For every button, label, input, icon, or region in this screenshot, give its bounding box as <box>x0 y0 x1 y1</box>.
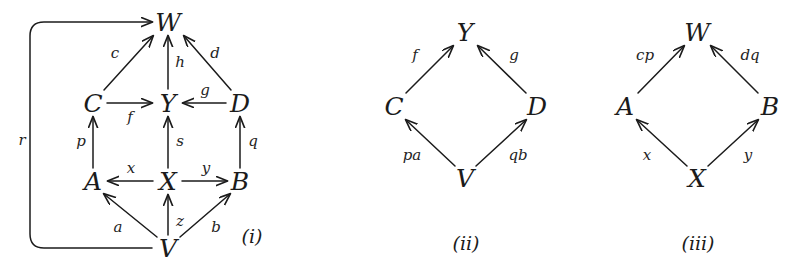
edge-label-i-q: q <box>248 134 258 149</box>
node-i-D: D <box>230 91 250 116</box>
edge-label-iii-cp: cp <box>636 48 654 63</box>
edge-label-i-f: f <box>127 110 133 125</box>
arrow-i-b <box>180 194 230 237</box>
node-iii-B: B <box>761 94 779 119</box>
edge-label-i-h: h <box>175 55 185 70</box>
edge-label-iii-y: y <box>744 148 752 163</box>
node-ii-D: D <box>527 94 547 119</box>
edge-label-ii-g: g <box>509 48 519 63</box>
edge-label-i-y: y <box>202 161 210 176</box>
edge-label-i-z: z <box>176 214 184 229</box>
edge-label-ii-qb: qb <box>508 148 527 163</box>
edge-label-i-r: r <box>18 133 25 148</box>
edge-label-iii-x: x <box>643 148 651 163</box>
node-ii-Y: Y <box>457 20 474 45</box>
node-i-A: A <box>84 169 102 194</box>
edge-label-i-b: b <box>211 220 221 235</box>
edge-label-i-a: a <box>114 220 123 235</box>
edge-label-iii-dq: dq <box>740 48 759 63</box>
edge-label-i-s: s <box>176 134 184 149</box>
edge-label-i-d: d <box>210 46 220 61</box>
node-i-X: X <box>159 169 177 194</box>
caption-diagram-ii: (ii) <box>453 234 480 253</box>
node-iii-X: X <box>688 166 706 191</box>
node-i-V: V <box>159 236 177 261</box>
edge-label-i-x: x <box>127 161 135 176</box>
node-iii-A: A <box>616 94 634 119</box>
edge-label-ii-pa: pa <box>403 148 422 163</box>
edge-label-i-c: c <box>111 46 119 61</box>
node-iii-W: W <box>684 20 710 45</box>
node-ii-C: C <box>384 94 403 119</box>
arrow-i-a <box>104 194 157 237</box>
node-ii-V: V <box>456 166 474 191</box>
arrow-i-r <box>30 22 152 248</box>
node-i-Y: Y <box>160 91 177 116</box>
node-i-W: W <box>155 10 181 35</box>
caption-diagram-i: (i) <box>242 227 263 246</box>
caption-diagram-iii: (iii) <box>681 234 714 253</box>
node-i-B: B <box>231 169 249 194</box>
edge-label-ii-f: f <box>412 48 418 63</box>
node-i-C: C <box>83 91 102 116</box>
edge-label-i-p: p <box>76 134 86 149</box>
edge-label-i-g: g <box>200 83 210 98</box>
commutative-diagram-figure: W C Y D A X B V c h d f g p s q x y a z … <box>0 0 806 270</box>
